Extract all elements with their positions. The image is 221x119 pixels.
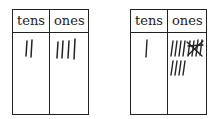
place-value-table-1: tens ones	[12, 9, 89, 115]
tally-marks-icon	[13, 10, 90, 116]
tally-marks-icon	[131, 10, 208, 116]
place-value-table-2: tens ones	[130, 9, 207, 115]
